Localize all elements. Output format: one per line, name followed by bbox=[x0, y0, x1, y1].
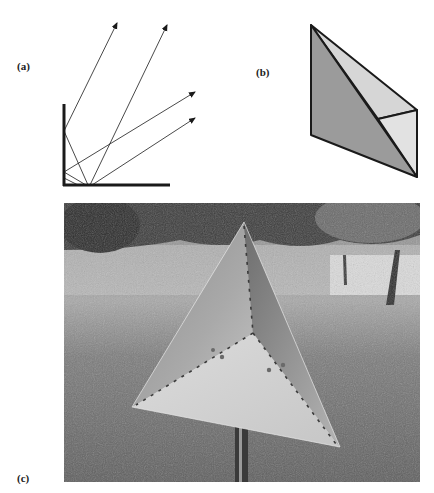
bolt bbox=[220, 355, 224, 359]
bolt bbox=[281, 363, 285, 367]
bolt bbox=[267, 368, 271, 372]
pole-highlight bbox=[239, 425, 242, 485]
bolt bbox=[211, 348, 215, 352]
panel-c-photo bbox=[0, 0, 434, 493]
